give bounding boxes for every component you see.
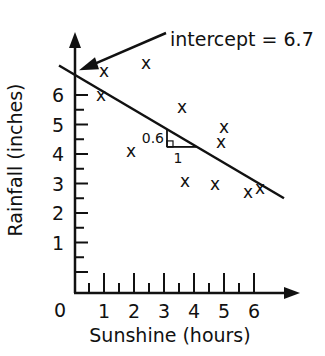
data-point: x — [126, 141, 136, 161]
y-axis-arrow — [69, 32, 81, 48]
y-tick-label: 5 — [52, 114, 64, 136]
regression-group — [59, 66, 284, 199]
regression-line — [59, 66, 284, 199]
data-point: x — [243, 182, 253, 202]
x-tick-label: 6 — [248, 300, 260, 322]
x-tick-label: 4 — [188, 300, 200, 322]
data-point: x — [96, 85, 106, 105]
intercept-arrow-head — [79, 57, 99, 70]
data-point: x — [141, 53, 151, 73]
y-tick-label: 4 — [52, 143, 64, 165]
x-tick-label: 3 — [158, 300, 170, 322]
data-point: x — [216, 132, 226, 152]
x-axis-arrow — [284, 287, 300, 299]
x-tick-label: 1 — [98, 300, 110, 322]
y-axis-title: Rainfall (inches) — [4, 84, 26, 237]
slope-rise-label: 0.6 — [142, 130, 164, 146]
data-point: x — [255, 178, 265, 198]
data-point: x — [210, 174, 220, 194]
data-point: x — [180, 171, 190, 191]
x-tick-label: 2 — [128, 300, 140, 322]
slope-run-label: 1 — [174, 150, 183, 166]
data-point: x — [99, 61, 109, 81]
x-axis-title: Sunshine (hours) — [89, 324, 250, 346]
y-tick-label: 6 — [52, 84, 64, 106]
scatter-chart: 123456123456 xxxxxxxxxxx 0.61 0 Sunshine… — [0, 0, 325, 356]
data-points: xxxxxxxxxxx — [96, 53, 265, 203]
x-tick-label: 5 — [218, 300, 230, 322]
intercept-label: intercept = 6.7 — [170, 28, 314, 50]
origin-label: 0 — [54, 299, 66, 321]
y-tick-label: 3 — [52, 173, 64, 195]
data-point: x — [177, 97, 187, 117]
y-tick-label: 2 — [52, 202, 64, 224]
intercept-arrow-line — [91, 33, 166, 65]
y-tick-label: 1 — [52, 232, 64, 254]
